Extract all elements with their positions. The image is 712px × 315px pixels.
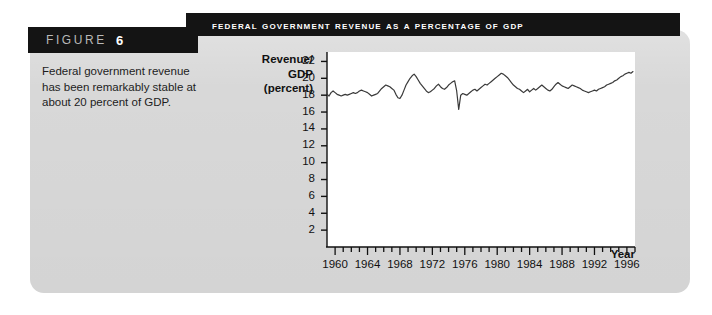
y-tick-label: 4 — [291, 206, 315, 218]
figure-title-banner: Federal Government Revenue as a Percenta… — [186, 13, 680, 36]
y-tick-label: 8 — [291, 172, 315, 184]
figure-number: 6 — [116, 33, 123, 48]
y-tick-label: 6 — [291, 189, 315, 201]
figure-caption: Federal government revenue has been rema… — [42, 64, 200, 111]
y-tick-label: 2 — [291, 223, 315, 235]
figure-label: FIGURE — [46, 33, 107, 47]
y-tick-label: 22 — [291, 54, 315, 66]
y-tick-label: 10 — [291, 155, 315, 167]
y-tick-label: 14 — [291, 121, 315, 133]
y-tick-label: 16 — [291, 105, 315, 117]
y-tick-label: 20 — [291, 71, 315, 83]
y-tick-label: 18 — [291, 88, 315, 100]
page-title: Federal Government Revenue as a Percenta… — [212, 19, 524, 31]
figure-number-banner: FIGURE 6 — [28, 27, 198, 53]
figure-page: Federal Government Revenue as a Percenta… — [0, 0, 712, 315]
chart-container: Revenue/GDP(percent) Year 24681012141618… — [225, 45, 670, 280]
x-tick-label: 1996 — [607, 258, 647, 270]
plot-background — [327, 52, 635, 247]
y-tick-label: 12 — [291, 138, 315, 150]
